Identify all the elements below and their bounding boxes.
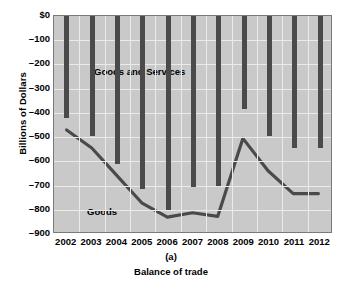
y-axis-tick-labels: $0–100–200–300–400–500–600–700–800–900	[12, 0, 50, 281]
bar	[140, 16, 145, 189]
y-tick-label: –700	[16, 180, 50, 190]
bar	[115, 16, 120, 164]
bar	[166, 16, 171, 210]
bar	[216, 16, 221, 186]
bar	[292, 16, 297, 148]
gridline-vertical	[181, 16, 182, 232]
bar	[90, 16, 95, 136]
y-tick-label: –900	[16, 228, 50, 238]
y-tick-label: –100	[16, 34, 50, 44]
gridline-vertical	[257, 16, 258, 232]
gridline-vertical	[130, 16, 131, 232]
gridline-vertical	[232, 16, 233, 232]
annotation-goods: Goods	[87, 206, 117, 217]
x-tick-label: 2008	[207, 236, 228, 247]
y-tick-label: –500	[16, 131, 50, 141]
y-tick-label: –300	[16, 83, 50, 93]
x-axis-tick-labels: 2002200320042005200620072008200920102011…	[53, 236, 332, 250]
x-tick-label: 2012	[309, 236, 330, 247]
gridline-vertical	[155, 16, 156, 232]
x-tick-label: 2009	[233, 236, 254, 247]
gridline-vertical	[308, 16, 309, 232]
gridline-vertical	[79, 16, 80, 232]
y-tick-label: –400	[16, 107, 50, 117]
y-tick-label: –800	[16, 204, 50, 214]
x-tick-label: 2011	[284, 236, 305, 247]
x-tick-label: 2006	[157, 236, 178, 247]
y-tick-label: –600	[16, 155, 50, 165]
x-tick-label: 2005	[131, 236, 152, 247]
bar	[191, 16, 196, 187]
gridline-vertical	[105, 16, 106, 232]
x-tick-label: 2003	[80, 236, 101, 247]
panel-label: (a)	[0, 251, 342, 262]
bar	[318, 16, 323, 148]
figure-caption: Balance of trade	[0, 266, 342, 277]
x-tick-label: 2007	[182, 236, 203, 247]
gridline-vertical	[206, 16, 207, 232]
x-tick-label: 2002	[55, 236, 76, 247]
y-tick-label: –200	[16, 58, 50, 68]
figure-balance-of-trade: Billions of Dollars $0–100–200–300–400–5…	[0, 0, 342, 281]
gridline-horizontal	[54, 210, 331, 211]
x-tick-label: 2004	[106, 236, 127, 247]
bar	[64, 16, 69, 118]
bar	[242, 16, 247, 109]
plot-area: Goods and Services Goods	[53, 15, 332, 233]
gridline-vertical	[282, 16, 283, 232]
bar	[267, 16, 272, 136]
y-tick-label: $0	[16, 10, 50, 20]
x-tick-label: 2010	[258, 236, 279, 247]
